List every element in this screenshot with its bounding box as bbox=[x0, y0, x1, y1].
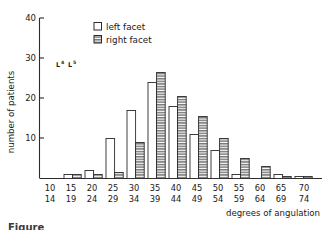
bar-right-facet-50-54 bbox=[220, 139, 229, 179]
histogram-figure: 40 30 20 10 number of patients 10 15 20 … bbox=[0, 0, 327, 230]
bar-left-facet-55-59 bbox=[232, 175, 241, 179]
x-tick-label-bottom-1: 19 bbox=[66, 194, 77, 204]
x-tick-label-top-3: 25 bbox=[108, 183, 119, 193]
bar-right-facet-45-49 bbox=[199, 117, 208, 179]
bar-right-facet-40-44 bbox=[178, 97, 187, 179]
annotation-l5-sup: 5 bbox=[73, 60, 76, 65]
legend-swatch-left-facet bbox=[94, 23, 102, 31]
bar-left-facet-50-54 bbox=[211, 151, 220, 179]
x-tick-label-top-2: 20 bbox=[87, 183, 98, 193]
y-tick-label-20: 20 bbox=[25, 93, 36, 103]
y-tick-label-10: 10 bbox=[25, 133, 36, 143]
bar-right-facet-20-24 bbox=[94, 175, 103, 179]
x-tick-label-top-6: 40 bbox=[171, 183, 182, 193]
bar-right-facet-70-74 bbox=[304, 177, 313, 179]
bar-left-facet-40-44 bbox=[169, 107, 178, 179]
figure-caption: Figure bbox=[8, 222, 44, 230]
bar-right-facet-65-69 bbox=[283, 177, 292, 179]
bar-right-facet-25-29 bbox=[115, 173, 124, 179]
x-tick-label-top-12: 70 bbox=[299, 183, 310, 193]
bar-right-facet-60-64 bbox=[262, 167, 271, 179]
x-tick-label-top-10: 60 bbox=[255, 183, 266, 193]
x-tick-label-bottom-7: 49 bbox=[192, 194, 203, 204]
x-tick-label-bottom-6: 44 bbox=[171, 194, 182, 204]
x-tick-label-bottom-3: 29 bbox=[108, 194, 119, 204]
x-tick-label-bottom-11: 69 bbox=[276, 194, 287, 204]
bar-right-facet-15-19 bbox=[73, 175, 82, 179]
annotation-l4-sup: 4 bbox=[61, 60, 64, 65]
annotation-l4-base: L bbox=[56, 61, 60, 69]
bar-right-facet-55-59 bbox=[241, 159, 250, 179]
x-tick-label-bottom-8: 54 bbox=[213, 194, 224, 204]
bar-left-facet-35-39 bbox=[148, 83, 157, 179]
bar-right-facet-35-39 bbox=[157, 73, 166, 179]
annotation-l5-base: L bbox=[68, 61, 72, 69]
x-tick-label-top-9: 55 bbox=[234, 183, 245, 193]
x-tick-label-top-7: 45 bbox=[192, 183, 203, 193]
bar-left-facet-70-74 bbox=[295, 177, 304, 179]
legend-label-left-facet: left facet bbox=[106, 22, 146, 32]
x-tick-label-bottom-10: 64 bbox=[255, 194, 266, 204]
x-tick-label-top-4: 30 bbox=[129, 183, 140, 193]
x-tick-label-bottom-2: 24 bbox=[87, 194, 98, 204]
x-axis-title: degrees of angulation bbox=[226, 208, 320, 218]
y-tick-label-30: 30 bbox=[25, 53, 36, 63]
x-tick-label-bottom-12: 74 bbox=[299, 194, 310, 204]
x-tick-label-top-5: 35 bbox=[150, 183, 161, 193]
y-axis-title: number of patients bbox=[6, 70, 16, 153]
bar-left-facet-45-49 bbox=[190, 135, 199, 179]
x-tick-label-bottom-4: 34 bbox=[129, 194, 140, 204]
x-tick-label-bottom-9: 59 bbox=[234, 194, 245, 204]
x-tick-label-bottom-5: 39 bbox=[150, 194, 161, 204]
y-tick-label-40: 40 bbox=[25, 13, 36, 23]
x-tick-label-top-11: 65 bbox=[276, 183, 287, 193]
bar-left-facet-25-29 bbox=[106, 139, 115, 179]
x-tick-label-top-1: 15 bbox=[66, 183, 77, 193]
x-tick-label-top-0: 10 bbox=[45, 183, 56, 193]
bar-right-facet-30-34 bbox=[136, 143, 145, 179]
bar-left-facet-30-34 bbox=[127, 111, 136, 179]
x-tick-label-top-8: 50 bbox=[213, 183, 224, 193]
bar-left-facet-20-24 bbox=[85, 171, 94, 179]
legend-label-right-facet: right facet bbox=[106, 35, 152, 45]
bar-left-facet-65-69 bbox=[274, 175, 283, 179]
legend-swatch-right-facet bbox=[94, 36, 102, 44]
bar-left-facet-15-19 bbox=[64, 175, 73, 179]
x-tick-label-bottom-0: 14 bbox=[45, 194, 56, 204]
